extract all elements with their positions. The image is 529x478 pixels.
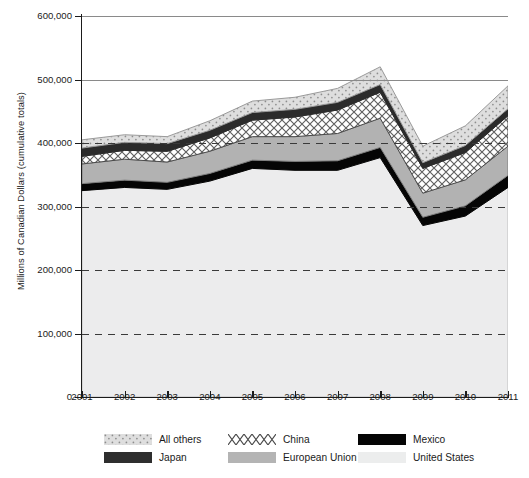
plot-area — [82, 16, 508, 397]
gridline-300000 — [82, 207, 508, 208]
legend-label: China — [283, 434, 310, 445]
gridline-600000 — [82, 16, 508, 17]
legend-item-all-others[interactable]: All others — [104, 434, 201, 445]
y-tick-label: 400,000 — [0, 137, 72, 148]
legend-swatch — [228, 434, 276, 445]
gridline-500000 — [82, 80, 508, 81]
legend-swatch — [358, 434, 406, 445]
y-tick-mark — [75, 80, 82, 81]
y-tick-mark — [75, 143, 82, 144]
gridline-100000 — [82, 334, 508, 335]
legend-label: All others — [159, 434, 201, 445]
legend-item-european-union[interactable]: European Union — [228, 452, 357, 463]
clipped-caption-text — [0, 470, 529, 478]
legend-swatch — [358, 452, 406, 463]
gridline-400000 — [82, 143, 508, 144]
legend-label: Japan — [159, 452, 187, 463]
y-axis-title: Millions of Canadian Dollars (cumulative… — [16, 66, 26, 316]
legend-item-china[interactable]: China — [228, 434, 310, 445]
y-tick-label: 200,000 — [0, 264, 72, 275]
y-tick-mark — [75, 16, 82, 17]
legend-label: United States — [413, 452, 474, 463]
y-tick-mark — [75, 207, 82, 208]
y-tick-mark — [75, 334, 82, 335]
legend-swatch — [104, 452, 152, 463]
legend-item-japan[interactable]: Japan — [104, 452, 187, 463]
legend-swatch — [104, 434, 152, 445]
legend-label: Mexico — [413, 434, 445, 445]
x-tick-label-2011: 2011 — [478, 391, 529, 402]
gridline-200000 — [82, 270, 508, 271]
legend-label: European Union — [283, 452, 357, 463]
legend-item-united-states[interactable]: United States — [358, 452, 474, 463]
legend-item-mexico[interactable]: Mexico — [358, 434, 445, 445]
y-tick-label: 600,000 — [0, 10, 72, 21]
y-tick-mark — [75, 270, 82, 271]
stacked-area-chart-figure: Millions of Canadian Dollars (cumulative… — [0, 0, 529, 478]
y-tick-label: 100,000 — [0, 328, 72, 339]
chart-legend: All othersChinaMexicoJapanEuropean Union… — [0, 434, 529, 470]
legend-swatch — [228, 452, 276, 463]
y-tick-label: 300,000 — [0, 201, 72, 212]
y-tick-label: 500,000 — [0, 74, 72, 85]
